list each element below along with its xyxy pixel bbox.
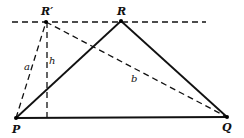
- point-Q: [225, 115, 229, 119]
- point-P: [14, 116, 18, 120]
- label-P: P: [11, 123, 21, 136]
- point-R-prime: [44, 20, 48, 24]
- point-R: [119, 19, 123, 23]
- label-a: a: [24, 61, 30, 72]
- label-h: h: [49, 55, 55, 66]
- label-Q: Q: [222, 121, 232, 134]
- triangle-diagram: P Q R R′ a h b: [0, 0, 244, 138]
- label-R-prime: R′: [40, 5, 53, 18]
- label-R: R: [116, 5, 126, 18]
- segment-PQ: [16, 117, 227, 118]
- label-b: b: [131, 73, 137, 84]
